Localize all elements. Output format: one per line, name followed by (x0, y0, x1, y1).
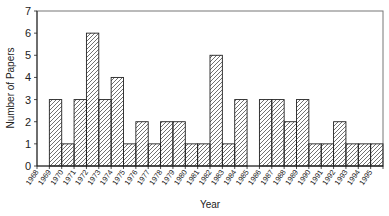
bar-1989 (297, 100, 309, 166)
bar-1984 (235, 100, 247, 166)
y-tick-label: 3 (25, 94, 31, 106)
bar-1990 (309, 144, 321, 166)
y-tick-label: 4 (25, 71, 31, 83)
bar-chart: 01234567 1968196919701971197219731974197… (0, 0, 389, 216)
bar-1979 (173, 122, 185, 166)
y-tick-label: 0 (25, 160, 31, 172)
bar-1994 (358, 144, 370, 166)
bar-1981 (198, 144, 210, 166)
bar-1973 (99, 100, 111, 166)
y-tick-label: 2 (25, 116, 31, 128)
bar-1969 (49, 100, 61, 166)
bar-1974 (111, 77, 123, 166)
bar-1980 (185, 144, 197, 166)
x-axis-title: Year (200, 199, 221, 210)
bar-1978 (161, 122, 173, 166)
bar-1987 (272, 100, 284, 166)
bar-1970 (62, 144, 74, 166)
bar-1976 (136, 122, 148, 166)
bar-1971 (74, 100, 86, 166)
bar-1975 (124, 144, 136, 166)
bar-1991 (321, 144, 333, 166)
bar-1992 (334, 122, 346, 166)
y-tick-label: 5 (25, 49, 31, 61)
bar-1995 (371, 144, 383, 166)
y-tick-label: 6 (25, 27, 31, 39)
bar-1986 (259, 100, 271, 166)
y-tick-label: 1 (25, 138, 31, 150)
bar-1977 (148, 144, 160, 166)
bar-1988 (284, 122, 296, 166)
bar-1982 (210, 55, 222, 166)
bar-1993 (346, 144, 358, 166)
x-axis: 1968196919701971197219731974197519761977… (24, 166, 383, 187)
bar-1983 (222, 144, 234, 166)
bar-1972 (86, 33, 98, 166)
y-axis: 01234567 (25, 5, 37, 172)
bars (49, 33, 383, 166)
y-axis-title: Number of Papers (5, 47, 16, 128)
y-tick-label: 7 (25, 5, 31, 17)
x-tick-label: 1995 (357, 168, 374, 187)
